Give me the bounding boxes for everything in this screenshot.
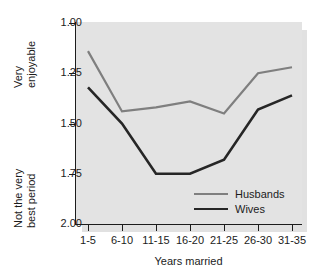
series-line-husbands	[88, 51, 292, 113]
legend-label: Wives	[235, 203, 265, 215]
chart-legend: Husbands Wives	[194, 186, 285, 216]
legend-item-husbands: Husbands	[194, 186, 285, 201]
line-chart-figure: 1.00 1.25 1.50 1.75 2.00 1-5 6-10 11-15 …	[0, 0, 328, 280]
legend-item-wives: Wives	[194, 201, 285, 216]
legend-label: Husbands	[235, 188, 285, 200]
legend-line-icon-husbands	[194, 193, 228, 195]
series-layer	[0, 0, 328, 280]
legend-line-icon-wives	[194, 208, 228, 210]
